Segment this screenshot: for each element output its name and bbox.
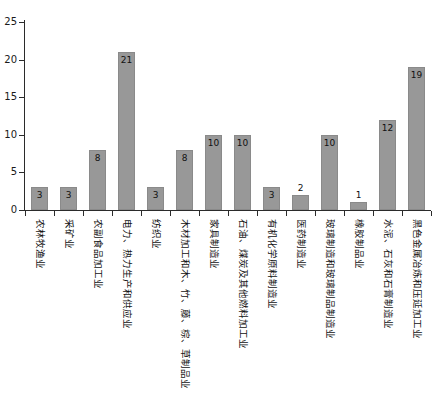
x-axis-category-label: 农林牧渔业 xyxy=(35,219,45,269)
bar-value-label: 8 xyxy=(84,154,111,163)
bar-value-label: 10 xyxy=(200,139,227,148)
x-axis-tick xyxy=(170,211,171,216)
bar-value-label: 3 xyxy=(258,191,285,200)
x-axis-tick xyxy=(83,211,84,216)
bar-chart: 0510152025 农林牧渔业采矿业农副食品加工业电力、热力生产和供应业纺织业… xyxy=(0,0,437,407)
y-axis-tick-label: 0 xyxy=(0,205,17,215)
bar[interactable] xyxy=(118,52,135,210)
x-axis-category-label: 黑色金属冶炼和压延加工业 xyxy=(412,219,422,339)
bar-value-label: 1 xyxy=(345,191,372,200)
x-axis-category-label: 电力、热力生产和供应业 xyxy=(122,219,132,329)
x-axis-tick xyxy=(228,211,229,216)
plot-area xyxy=(25,22,431,210)
bar-value-label: 8 xyxy=(171,154,198,163)
bar-value-label: 3 xyxy=(26,191,53,200)
x-axis-category-label: 木材加工和木、竹、藤、棕、草制品业 xyxy=(180,219,190,389)
bar-value-label: 12 xyxy=(374,124,401,133)
x-axis-category-label: 纺织业 xyxy=(151,219,161,249)
x-axis-tick xyxy=(431,211,432,216)
bar-value-label: 10 xyxy=(229,139,256,148)
x-axis-tick xyxy=(402,211,403,216)
x-axis-tick xyxy=(344,211,345,216)
y-axis-tick-label: 25 xyxy=(0,17,17,27)
bar-value-label: 2 xyxy=(287,184,314,193)
bar-value-label: 19 xyxy=(403,71,430,80)
x-axis-tick xyxy=(25,211,26,216)
x-axis-tick xyxy=(199,211,200,216)
x-axis-category-label: 农副食品加工业 xyxy=(93,219,103,289)
bar-value-label: 3 xyxy=(55,191,82,200)
x-axis-category-label: 水泥、石灰和石膏制造业 xyxy=(383,219,393,329)
y-axis-tick-label: 5 xyxy=(0,167,17,177)
bar-value-label: 3 xyxy=(142,191,169,200)
x-axis-tick xyxy=(373,211,374,216)
x-axis-category-label: 有机化学原料制造业 xyxy=(267,219,277,309)
x-axis-tick xyxy=(141,211,142,216)
x-axis-category-label: 医药制造业 xyxy=(296,219,306,269)
x-axis-tick xyxy=(112,211,113,216)
x-axis-category-label: 采矿业 xyxy=(64,219,74,249)
x-axis-tick xyxy=(54,211,55,216)
x-axis-category-label: 家具制造业 xyxy=(209,219,219,269)
x-axis-tick xyxy=(286,211,287,216)
bar[interactable] xyxy=(408,67,425,210)
x-axis-tick xyxy=(257,211,258,216)
bar-value-label: 21 xyxy=(113,56,140,65)
bar[interactable] xyxy=(379,120,396,210)
y-axis-tick-label: 15 xyxy=(0,92,17,102)
x-axis-category-label: 橡胶制品业 xyxy=(354,219,364,269)
y-axis-tick-label: 20 xyxy=(0,55,17,65)
bar[interactable] xyxy=(292,195,309,210)
bar[interactable] xyxy=(350,202,367,210)
x-axis-category-label: 石油、煤炭及其他燃料加工业 xyxy=(238,219,248,349)
x-axis-tick xyxy=(315,211,316,216)
y-axis-tick-label: 10 xyxy=(0,130,17,140)
x-axis-category-label: 玻璃制造和玻璃制品制造业 xyxy=(325,219,335,339)
bar-value-label: 10 xyxy=(316,139,343,148)
